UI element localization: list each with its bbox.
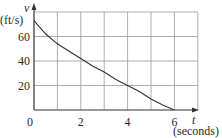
y-axis-arrow-icon	[32, 3, 37, 10]
y-axis-variable: v	[24, 1, 30, 15]
velocity-time-chart: 204060 0246 v (ft/s) t (seconds)	[0, 0, 222, 138]
y-tick-label: 60	[18, 30, 30, 44]
x-tick-label: 0	[27, 115, 33, 129]
y-tick-labels: 204060	[18, 30, 30, 93]
grid-lines	[34, 12, 198, 110]
x-tick-label: 4	[125, 115, 131, 129]
x-tick-labels: 0246	[27, 115, 177, 129]
y-axis-unit: (ft/s)	[0, 13, 23, 27]
x-axis-unit: (seconds)	[173, 124, 219, 138]
y-tick-label: 40	[18, 54, 30, 68]
axes	[32, 3, 200, 113]
y-tick-label: 20	[18, 79, 30, 93]
x-tick-label: 2	[78, 115, 84, 129]
